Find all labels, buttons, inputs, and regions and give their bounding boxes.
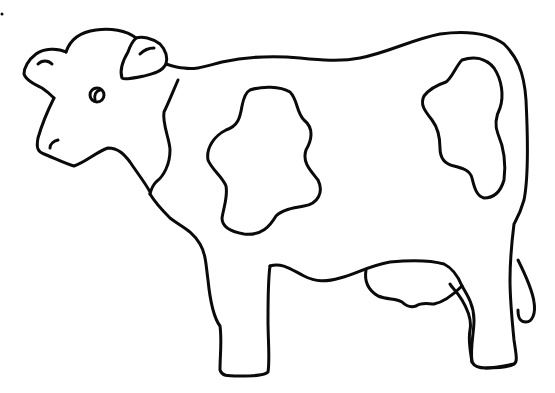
cow-drawing: [0, 0, 555, 393]
left-ear-inner: [38, 61, 52, 64]
tail: [518, 260, 535, 322]
hind-leg-bottom: [486, 364, 514, 368]
right-ear-inner: [140, 48, 154, 54]
neck-line: [150, 80, 178, 194]
udder: [366, 270, 463, 307]
spot-rear: [422, 58, 504, 198]
left-ear: [24, 49, 66, 98]
eye-pupil: [95, 90, 100, 100]
nostril: [50, 140, 58, 148]
stray-dot: [1, 13, 4, 16]
spot-front: [208, 87, 321, 234]
rear-leg-inner: [462, 286, 474, 362]
head: [37, 29, 150, 192]
front-legs: [150, 194, 270, 376]
right-ear: [121, 37, 167, 79]
